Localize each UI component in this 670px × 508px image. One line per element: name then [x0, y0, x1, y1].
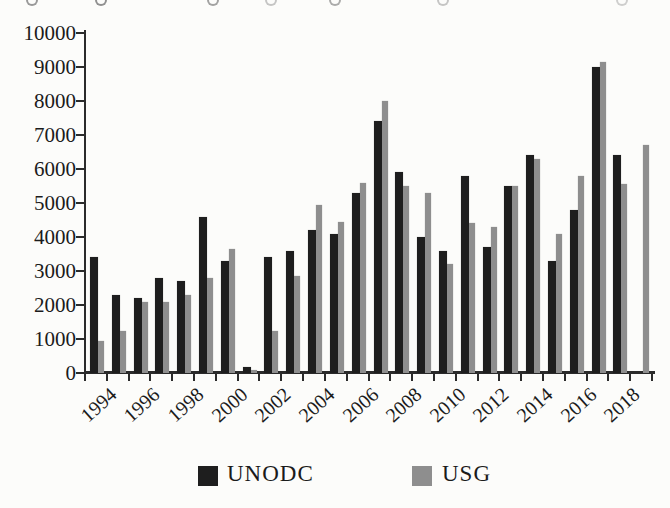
legend-label-unodc: UNODC [227, 462, 314, 486]
legend-swatch-usg [412, 466, 432, 486]
legend: UNODC USG [0, 0, 670, 508]
chart-figure: 0100020003000400050006000700080009000100… [0, 0, 670, 508]
legend-swatch-unodc [198, 466, 218, 486]
legend-label-usg: USG [442, 462, 491, 486]
